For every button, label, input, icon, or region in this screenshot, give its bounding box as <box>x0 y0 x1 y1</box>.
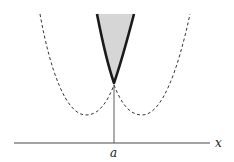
point-label-a: a <box>110 146 117 160</box>
shaded-region <box>97 14 134 83</box>
diagram: x a <box>0 0 234 162</box>
x-axis-label: x <box>215 136 222 150</box>
